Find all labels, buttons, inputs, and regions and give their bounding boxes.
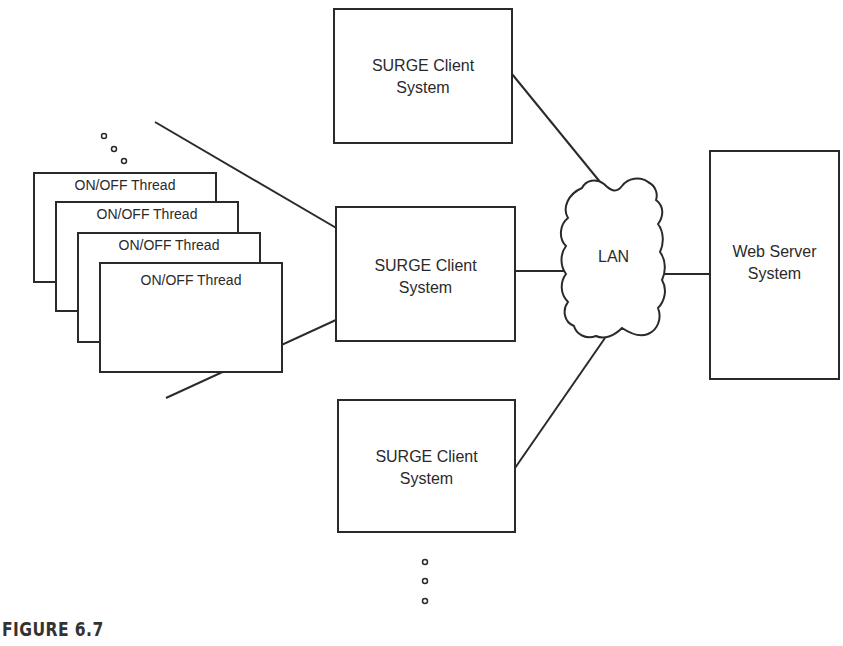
lan-label: LAN [598, 248, 629, 266]
web-server-box: Web Server System [709, 150, 840, 380]
thread-label: ON/OFF Thread [79, 236, 259, 254]
client-label-line2: System [339, 469, 514, 489]
server-label-line1: Web Server [711, 242, 838, 262]
figure-caption: FIGURE 6.7 [2, 618, 104, 640]
client-label-line1: SURGE Client [337, 256, 514, 276]
server-label-line2: System [711, 264, 838, 284]
thread-label: ON/OFF Thread [35, 176, 215, 194]
link-client3-lan [515, 338, 605, 468]
client-ellipsis-icon [423, 560, 428, 604]
surge-client-box-middle: SURGE Client System [335, 206, 516, 342]
surge-client-box-bottom: SURGE Client System [337, 399, 516, 533]
thread-label: ON/OFF Thread [101, 271, 281, 289]
client-label-line1: SURGE Client [335, 56, 511, 76]
thread-label: ON/OFF Thread [57, 205, 237, 223]
surge-client-box-top: SURGE Client System [333, 8, 513, 144]
client-label-line2: System [337, 278, 514, 298]
thread-ellipsis-icon [102, 134, 127, 164]
client-label-line2: System [335, 78, 511, 98]
client-label-line1: SURGE Client [339, 447, 514, 467]
thread-box-4: ON/OFF Thread [99, 262, 283, 373]
link-client1-lan [512, 74, 605, 188]
